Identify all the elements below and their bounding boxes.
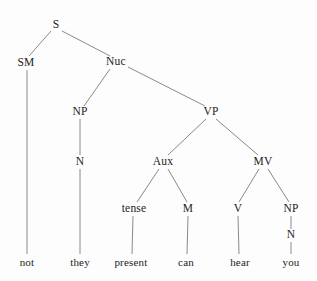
- tree-edge-tense-to-present: [132, 216, 133, 254]
- syntax-tree-diagram: SSMNucNPVPNAuxMVtenseMVNPNnottheypresent…: [0, 0, 317, 281]
- tree-edge-VP-to-Aux: [168, 119, 206, 155]
- tree-edge-VP-to-MV: [216, 119, 258, 155]
- tree-edge-Nuc-to-VP: [128, 67, 205, 106]
- tree-edge-S-to-SM: [29, 31, 51, 56]
- tree-node-Nuc: Nuc: [106, 56, 126, 68]
- tree-node-N2: N: [287, 229, 296, 241]
- tree-edge-MV-to-NP2: [268, 169, 289, 202]
- tree-edge-S-to-Nuc: [62, 31, 110, 56]
- tree-node-VP: VP: [203, 106, 218, 118]
- tree-leaf-not: not: [20, 257, 35, 268]
- tree-node-tense: tense: [122, 203, 147, 215]
- tree-node-M: M: [183, 203, 193, 215]
- tree-edge-M-to-can: [187, 216, 188, 254]
- tree-node-V: V: [234, 203, 243, 215]
- tree-leaf-can: can: [178, 257, 194, 268]
- tree-edge-V-to-hear: [238, 216, 239, 254]
- tree-edge-MV-to-V: [239, 169, 259, 202]
- tree-leaf-hear: hear: [230, 257, 250, 268]
- tree-node-S: S: [53, 19, 60, 31]
- tree-node-SM: SM: [17, 57, 34, 69]
- tree-node-N1: N: [76, 156, 85, 168]
- tree-node-MV: MV: [254, 156, 273, 168]
- tree-leaf-you: you: [282, 257, 299, 268]
- tree-leaf-present: present: [114, 257, 147, 268]
- tree-node-Aux: Aux: [153, 156, 173, 168]
- tree-node-NP2: NP: [283, 203, 298, 215]
- tree-edge-Aux-to-M: [168, 169, 187, 202]
- tree-node-NP1: NP: [72, 106, 87, 118]
- tree-edges-layer: [0, 0, 317, 281]
- tree-leaf-they: they: [70, 257, 90, 268]
- tree-edge-Aux-to-tense: [137, 169, 159, 202]
- tree-edge-Nuc-to-NP1: [84, 69, 110, 106]
